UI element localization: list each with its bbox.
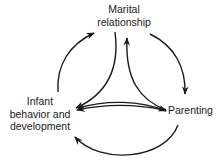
arrow-parenting-to-marital <box>127 38 166 110</box>
arrow-infant-to-marital <box>58 33 94 92</box>
arrows-layer <box>0 0 223 167</box>
arrow-parenting-to-infant <box>75 125 178 155</box>
arrow-marital-to-parenting <box>150 34 185 94</box>
arrow-marital-to-infant <box>76 32 116 108</box>
